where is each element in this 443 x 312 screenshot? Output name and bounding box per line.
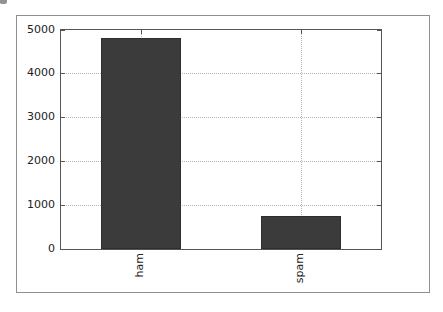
y-axis-tick-label: 5000	[0, 23, 55, 36]
y-axis-tick	[377, 205, 381, 206]
x-axis-tick	[301, 30, 302, 34]
y-axis-tick	[61, 73, 65, 74]
bar-spam	[261, 216, 341, 249]
y-axis-tick	[61, 249, 65, 250]
y-axis-tick	[377, 249, 381, 250]
corner-artifact	[0, 0, 7, 4]
y-axis-tick	[61, 117, 65, 118]
y-axis-tick-label: 1000	[0, 198, 55, 211]
y-axis-tick-label: 0	[0, 242, 55, 255]
y-axis-tick	[377, 73, 381, 74]
x-axis-category-label: spam	[293, 253, 307, 283]
y-axis-tick	[61, 30, 65, 31]
y-axis-tick-label: 4000	[0, 66, 55, 79]
y-axis-tick	[377, 117, 381, 118]
y-axis-tick	[377, 30, 381, 31]
plot-area	[60, 29, 382, 250]
y-axis-tick-label: 2000	[0, 154, 55, 167]
y-axis-tick-label: 3000	[0, 110, 55, 123]
x-axis-category-label: ham	[133, 253, 147, 277]
chart-screenshot: 010002000300040005000 hamspam	[0, 0, 443, 312]
y-axis-tick	[61, 205, 65, 206]
x-axis-tick	[141, 30, 142, 34]
y-axis-tick	[61, 161, 65, 162]
y-axis-tick	[377, 161, 381, 162]
bar-ham	[101, 38, 181, 249]
